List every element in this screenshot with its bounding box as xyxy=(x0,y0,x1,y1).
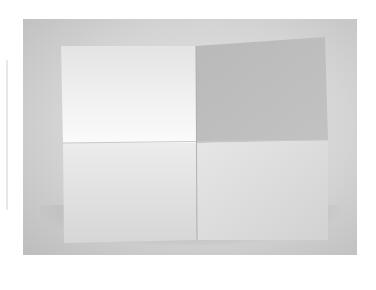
panel-top-left xyxy=(61,46,196,143)
panel-top-right xyxy=(196,37,328,143)
folded-paper xyxy=(0,0,376,290)
panel-bottom-right xyxy=(196,140,328,240)
panel-bottom-left xyxy=(63,143,197,243)
